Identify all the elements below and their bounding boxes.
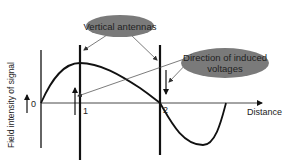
y-axis-label: Field intensity of signal	[6, 62, 16, 148]
callout-line-antenna-2	[130, 34, 157, 60]
callout-line-voltage-1	[78, 57, 190, 96]
origin-label: 0	[31, 99, 36, 109]
antenna-1-label: 1	[83, 106, 88, 116]
callout-induced-voltages-text-line1: Direction of induced	[183, 52, 267, 63]
callout-vertical-antennas-text: Vertical antennas	[84, 21, 157, 32]
antenna-2-label: 2	[163, 105, 168, 115]
x-axis-label: Distance	[247, 107, 282, 117]
antenna-diagram: Vertical antennas Direction of induced v…	[0, 0, 293, 163]
callout-line-antenna-1	[84, 35, 107, 50]
callout-induced-voltages-text-line2: voltages	[207, 63, 243, 74]
signal-wave	[41, 63, 226, 145]
